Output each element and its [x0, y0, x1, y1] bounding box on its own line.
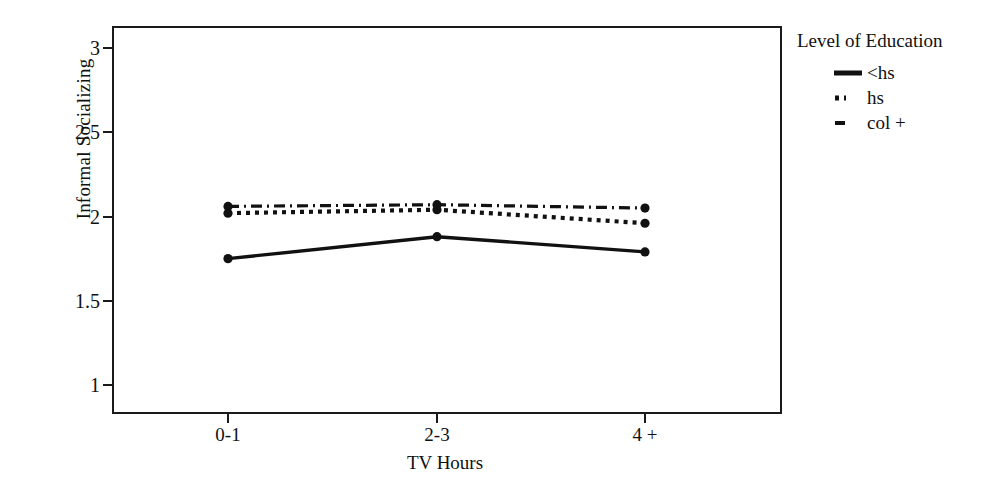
x-tick-label: 4 +: [600, 424, 690, 446]
y-tick-label: 2.5: [54, 121, 100, 144]
x-tick-mark: [644, 414, 646, 423]
y-tick-mark: [103, 131, 112, 133]
legend-item-label: col +: [867, 112, 906, 134]
chart-page: Informal Socializing 11.522.53 TV Hours …: [0, 0, 983, 495]
dash-dot-line-swatch: [833, 116, 863, 130]
legend: Level of Education <hshscol +: [797, 30, 977, 135]
plot-area: [112, 26, 782, 414]
y-tick-mark: [103, 216, 112, 218]
y-tick-label: 2: [54, 205, 100, 228]
y-tick-mark: [103, 384, 112, 386]
x-tick-mark: [436, 414, 438, 423]
y-tick-label: 1: [54, 374, 100, 397]
solid-line-swatch: [833, 66, 863, 80]
legend-title: Level of Education: [797, 30, 977, 52]
legend-items: <hshscol +: [797, 60, 977, 135]
x-tick-mark: [227, 414, 229, 423]
legend-item-label: hs: [867, 87, 884, 109]
x-tick-label: 2-3: [392, 424, 482, 446]
dotted-line-swatch: [833, 91, 863, 105]
legend-item: <hs: [797, 60, 977, 85]
y-tick-label: 3: [54, 37, 100, 60]
y-tick-mark: [103, 47, 112, 49]
y-tick-label: 1.5: [54, 289, 100, 312]
x-tick-label: 0-1: [183, 424, 273, 446]
legend-item-label: <hs: [867, 62, 895, 84]
legend-item: hs: [797, 85, 977, 110]
x-axis-title: TV Hours: [0, 452, 890, 474]
y-tick-mark: [103, 300, 112, 302]
legend-item: col +: [797, 110, 977, 135]
